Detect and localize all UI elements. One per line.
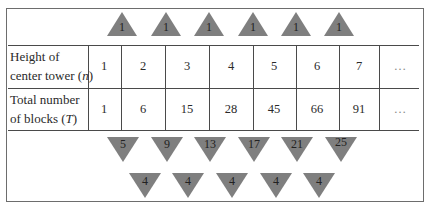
first-diff: 25 [326, 135, 356, 150]
row-header-height: Height of center tower (n) [10, 47, 93, 85]
row-header-blocks: Total number of blocks (T) [10, 90, 80, 128]
table-mid-border [8, 88, 419, 89]
n-cell: 2 [123, 59, 163, 74]
first-diff: 5 [108, 137, 138, 152]
t-cell: … [380, 102, 420, 117]
col-divider [209, 45, 210, 130]
row-header-line2: center tower (n) [10, 66, 93, 85]
n-cell: 3 [167, 59, 207, 74]
table-top-border [8, 45, 419, 46]
col-divider [296, 45, 297, 130]
top-diff: 1 [107, 20, 137, 35]
top-diff: 1 [238, 20, 268, 35]
n-cell: … [380, 59, 420, 74]
paren: ) [73, 111, 77, 126]
row-header-text: of blocks ( [10, 111, 66, 126]
second-diff: 4 [304, 174, 334, 189]
n-cell: 1 [84, 59, 124, 74]
top-diff: 1 [151, 20, 181, 35]
row-header-line1: Total number [10, 90, 80, 109]
col-divider [379, 45, 380, 130]
n-cell: 7 [339, 59, 379, 74]
col-divider [121, 45, 122, 130]
n-cell: 6 [297, 59, 337, 74]
first-diff: 21 [282, 137, 312, 152]
t-cell: 45 [254, 102, 294, 117]
t-cell: 1 [84, 102, 124, 117]
t-cell: 15 [167, 102, 207, 117]
t-cell: 6 [123, 102, 163, 117]
second-diff: 4 [261, 174, 291, 189]
col-divider [253, 45, 254, 130]
row-header-line1: Height of [10, 47, 93, 66]
first-diff: 9 [152, 137, 182, 152]
col-divider [339, 45, 340, 130]
variable-t: T [66, 111, 73, 126]
first-diff: 17 [239, 137, 269, 152]
row-header-text: center tower ( [10, 68, 82, 83]
second-diff: 4 [173, 174, 203, 189]
top-diff: 1 [324, 20, 354, 35]
col-divider [165, 45, 166, 130]
t-cell: 91 [339, 102, 379, 117]
table-bottom-border [8, 130, 419, 131]
t-cell: 28 [211, 102, 251, 117]
second-diff: 4 [217, 174, 247, 189]
t-cell: 66 [297, 102, 337, 117]
second-diff: 4 [130, 174, 160, 189]
first-diff: 13 [195, 137, 225, 152]
top-diff: 1 [194, 20, 224, 35]
n-cell: 5 [254, 59, 294, 74]
row-header-line2: of blocks (T) [10, 109, 80, 128]
top-diff: 1 [281, 20, 311, 35]
n-cell: 4 [211, 59, 251, 74]
